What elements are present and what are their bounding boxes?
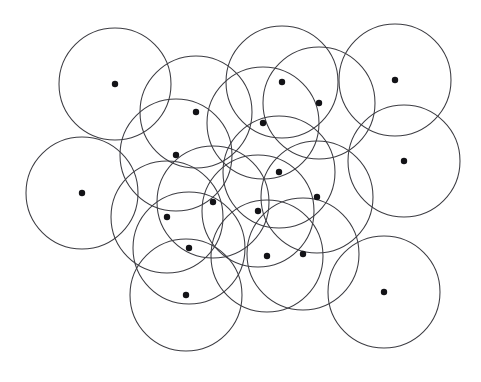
- diagram-background: [0, 0, 481, 382]
- center-point-dot: [186, 245, 192, 251]
- center-point-dot: [276, 169, 282, 175]
- center-point-dot: [183, 292, 189, 298]
- circle-covering-diagram: [0, 0, 481, 382]
- center-point-dot: [392, 77, 398, 83]
- center-point-dot: [316, 100, 322, 106]
- center-point-dot: [381, 289, 387, 295]
- center-point-dot: [255, 208, 261, 214]
- figure-root: ITIT ITIT ITI TTTI T TITITI IT TITTI TT …: [0, 0, 481, 382]
- center-point-dot: [193, 109, 199, 115]
- center-point-dot: [164, 214, 170, 220]
- center-point-dot: [112, 81, 118, 87]
- center-point-dot: [300, 251, 306, 257]
- center-point-dot: [173, 152, 179, 158]
- center-point-dot: [210, 199, 216, 205]
- center-point-dot: [264, 253, 270, 259]
- center-point-dot: [79, 190, 85, 196]
- center-point-dot: [401, 158, 407, 164]
- center-point-dot: [260, 120, 266, 126]
- center-point-dot: [279, 79, 285, 85]
- center-point-dot: [314, 194, 320, 200]
